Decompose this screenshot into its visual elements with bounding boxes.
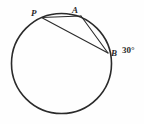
geometry-canvas: [0, 0, 144, 124]
chord-p-b: [42, 18, 109, 54]
point-label-b: B: [111, 49, 117, 58]
geometry-figure: P A B 30°: [0, 0, 144, 124]
chord-a-b: [81, 16, 108, 53]
angle-measure-label: 30°: [122, 46, 135, 55]
point-label-a: A: [72, 6, 78, 15]
point-label-p: P: [31, 9, 37, 18]
